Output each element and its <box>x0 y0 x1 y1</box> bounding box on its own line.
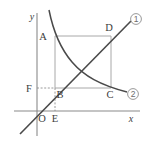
point-label-f: F <box>26 83 32 94</box>
curve-tag-line1: 1 <box>131 14 142 25</box>
point-label-e: E <box>52 113 58 124</box>
axis-labels-group: x y <box>29 11 134 124</box>
point-label-a: A <box>39 31 47 42</box>
hyperbola-curve <box>49 10 127 92</box>
origin-label: O <box>38 113 46 124</box>
y-axis-label: y <box>29 11 35 22</box>
point-label-d: D <box>105 22 113 33</box>
curve-tag-curve2: 2 <box>128 89 139 100</box>
point-label-b: B <box>56 89 63 100</box>
figure-canvas: A B C D E F O x y 1 2 <box>0 0 150 144</box>
x-axis-label: x <box>128 113 134 124</box>
rectangle-abcd <box>55 36 111 88</box>
curve-tag-label-2: 2 <box>131 89 136 99</box>
point-labels-group: A B C D E F O <box>26 22 113 124</box>
curve-tag-label-1: 1 <box>134 14 139 24</box>
point-label-c: C <box>106 89 113 100</box>
geometry-figure: A B C D E F O x y 1 2 <box>0 0 150 144</box>
